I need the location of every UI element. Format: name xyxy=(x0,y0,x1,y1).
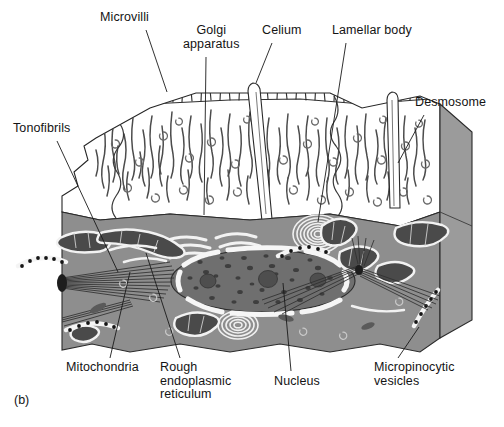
label-mitochondria: Mitochondria xyxy=(66,361,139,375)
label-golgi: Golgi apparatus xyxy=(183,24,240,51)
nucleus xyxy=(171,248,355,315)
label-lamellar-body: Lamellar body xyxy=(332,24,412,38)
label-nucleus: Nucleus xyxy=(274,375,320,389)
label-microvilli: Microvilli xyxy=(100,11,149,25)
label-rough-er: Rough endoplasmic reticulum xyxy=(160,361,231,402)
micropinocytic-vesicle xyxy=(18,256,66,268)
label-tonofibrils: Tonofibrils xyxy=(13,122,70,136)
label-desmosome: Desmosome xyxy=(415,96,486,110)
block-right-face xyxy=(440,104,472,338)
leader-celium xyxy=(256,43,272,83)
panel-mark: (b) xyxy=(14,393,29,407)
leader-microvilli xyxy=(146,30,167,92)
label-celium: Celium xyxy=(262,24,302,38)
label-micropinocytic: Micropinocytic vesicles xyxy=(374,361,455,388)
